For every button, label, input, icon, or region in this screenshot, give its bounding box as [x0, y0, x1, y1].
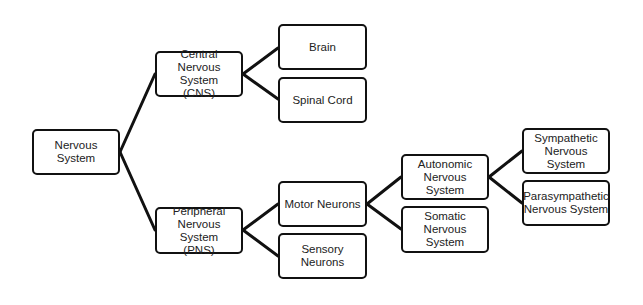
edge-motor-somatic [367, 204, 401, 229]
edge-cns-brain [243, 48, 278, 74]
node-peripheral-nervous-system: Peripheral Nervous System (PNS) [155, 207, 243, 254]
node-label: Motor Neurons [284, 198, 360, 211]
node-label: Sympathetic Nervous System [527, 132, 605, 171]
node-nervous-system: Nervous System [32, 129, 120, 175]
node-spinal-cord: Spinal Cord [278, 77, 367, 123]
node-label: Brain [309, 41, 336, 54]
edge-nervous-system-pns [120, 152, 155, 230]
edge-autonomic-sympathetic [489, 151, 522, 177]
edge-pns-sensory [243, 230, 278, 256]
node-sympathetic-nervous-system: Sympathetic Nervous System [522, 128, 610, 174]
node-somatic-nervous-system: Somatic Nervous System [401, 206, 489, 253]
node-motor-neurons: Motor Neurons [278, 181, 367, 227]
node-label: Nervous System [37, 139, 115, 165]
node-label: Parasympathetic Nervous System [523, 190, 609, 216]
node-sensory-neurons: Sensory Neurons [278, 233, 367, 279]
node-parasympathetic-nervous-system: Parasympathetic Nervous System [522, 180, 610, 226]
nervous-system-tree-diagram: Nervous System Central Nervous System (C… [0, 0, 643, 305]
edge-motor-autonomic [367, 177, 401, 204]
node-label: Central Nervous System (CNS) [160, 48, 238, 100]
node-central-nervous-system: Central Nervous System (CNS) [155, 51, 243, 97]
node-label: Sensory Neurons [283, 243, 362, 269]
node-brain: Brain [278, 24, 367, 70]
edge-nervous-system-cns [120, 74, 155, 152]
node-label: Spinal Cord [292, 94, 352, 107]
edge-autonomic-parasympathetic [489, 177, 522, 203]
edge-pns-motor [243, 204, 278, 230]
node-label: Autonomic Nervous System [406, 158, 484, 197]
node-label: Somatic Nervous System [406, 210, 484, 249]
node-label: Peripheral Nervous System (PNS) [160, 205, 238, 257]
edge-cns-spinal-cord [243, 74, 278, 99]
node-autonomic-nervous-system: Autonomic Nervous System [401, 154, 489, 200]
